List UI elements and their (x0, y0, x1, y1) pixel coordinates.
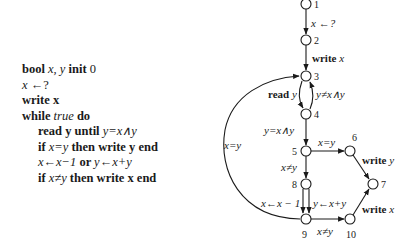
node-label-5: 5 (292, 146, 297, 157)
node-label-1: 1 (314, 0, 319, 10)
edge-4-3 (310, 82, 313, 109)
edge-label-1-2: x ←? (310, 17, 336, 29)
edge-label-5-8: x≠y (280, 161, 297, 173)
edge-label-4-3: y≠x∧y (315, 88, 345, 100)
node-6 (345, 146, 355, 156)
node-4 (301, 109, 311, 119)
edge-label-5-6: x=y (317, 136, 335, 148)
node-8 (301, 179, 311, 189)
node-1 (301, 0, 311, 9)
node-label-9: 9 (302, 229, 307, 240)
node-2 (301, 35, 311, 45)
edge-label-2-3: write x (312, 52, 344, 64)
node-label-6: 6 (352, 132, 357, 143)
edge-label-9-3: x=y (223, 139, 241, 151)
node-3 (301, 71, 311, 81)
edge-label-3-4: read y (268, 88, 297, 100)
node-label-2: 2 (314, 35, 319, 46)
control-flow-graph: 12345678910 x ←? write x read y y≠x∧y y=… (0, 0, 414, 243)
node-10 (345, 214, 355, 224)
edge-3-4 (299, 81, 303, 108)
node-label-8: 8 (292, 179, 297, 190)
node-label-10: 10 (346, 229, 356, 240)
node-label-3: 3 (314, 71, 319, 82)
node-label-4: 4 (314, 109, 319, 120)
node-7 (368, 179, 378, 189)
node-9 (301, 214, 311, 224)
edge-label-4-5: y=x∧y (263, 124, 294, 136)
edge-label-9-10: x≠y (316, 225, 333, 237)
edge-label-6-7: write y (362, 154, 394, 166)
node-5 (301, 146, 311, 156)
node-label-7: 7 (381, 179, 386, 190)
edge-label-10-7: write x (362, 203, 394, 215)
edge-label-8-9a: x←x − 1 (260, 197, 300, 209)
edge-label-8-9b: y←x+y (312, 197, 346, 209)
